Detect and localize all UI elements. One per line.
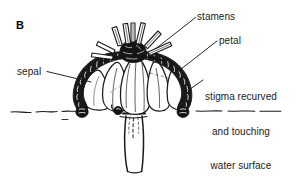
label-stigma-line-1: stigma recurved (205, 91, 277, 103)
peduncle-stem (120, 114, 147, 173)
label-stamens: stamens (197, 11, 235, 23)
label-stigma: stigma recurved and touching water surfa… (205, 68, 277, 180)
label-sepal: sepal (17, 66, 41, 78)
leader-stamens (156, 18, 196, 49)
label-stigma-line-2: and touching (205, 126, 277, 138)
panel-label: B (16, 19, 24, 31)
label-stigma-line-3: water surface (205, 160, 277, 172)
leader-petal (181, 41, 218, 70)
label-petal: petal (219, 35, 241, 47)
